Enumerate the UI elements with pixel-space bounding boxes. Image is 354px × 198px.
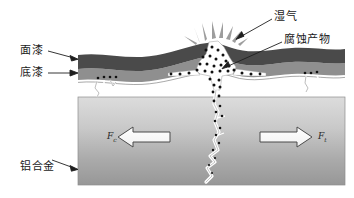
force-subscript-right: t bbox=[324, 136, 326, 143]
label-substrate: 铝合金 bbox=[20, 161, 55, 172]
force-label-right: Ft bbox=[318, 132, 327, 143]
label-topcoat: 面漆 bbox=[20, 45, 43, 56]
force-subscript-left: c bbox=[113, 136, 116, 143]
force-label-left: Fc bbox=[107, 132, 117, 143]
figure-canvas: 面漆 底漆 铝合金 湿气 腐蚀产物 Fc Ft bbox=[0, 0, 354, 198]
label-primer: 底漆 bbox=[20, 67, 43, 78]
label-corrosion-products: 腐蚀产物 bbox=[284, 34, 330, 45]
label-moisture: 湿气 bbox=[274, 11, 297, 22]
